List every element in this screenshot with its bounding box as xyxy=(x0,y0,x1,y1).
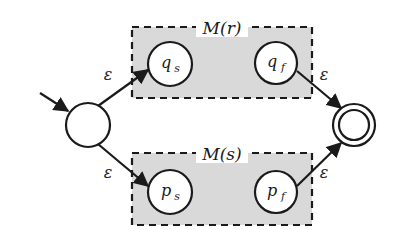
state-p-s: p s xyxy=(148,170,192,214)
epsilon-label: ε xyxy=(104,65,113,84)
state-p-f: p f xyxy=(255,171,297,213)
start-arrow xyxy=(40,93,68,111)
sub-machine-label: M(s) xyxy=(201,144,241,164)
state-label-sub: s xyxy=(174,62,180,75)
accept-inner-circle xyxy=(339,110,369,140)
sub-machine-label: M(r) xyxy=(202,18,242,38)
nfa-diagram: M(r) M(s) ε ε ε ε q s q f p s xyxy=(0,0,403,242)
state-q-s: q s xyxy=(148,42,192,86)
state-label-sub: s xyxy=(174,190,180,203)
state-label-base: q xyxy=(161,53,171,72)
accept-state xyxy=(333,104,375,146)
epsilon-label: ε xyxy=(320,163,329,182)
epsilon-label: ε xyxy=(320,65,329,84)
state-label-base: p xyxy=(267,181,277,200)
state-q-f: q f xyxy=(255,42,297,84)
state-label-base: p xyxy=(161,181,171,200)
state-label-base: q xyxy=(267,52,277,71)
start-state xyxy=(66,103,110,147)
epsilon-label: ε xyxy=(104,163,113,182)
